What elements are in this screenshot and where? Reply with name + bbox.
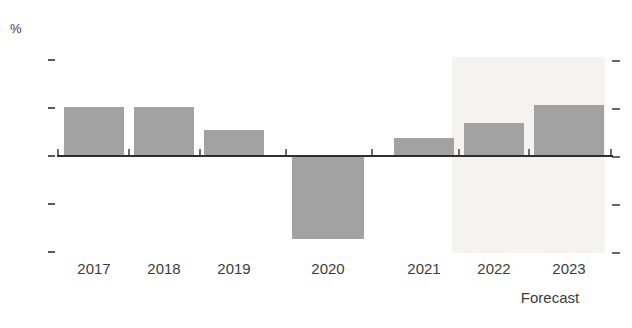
bar-2019 — [204, 130, 264, 155]
x-axis-label-2017: 2017 — [64, 261, 124, 277]
x-axis-label-2021: 2021 — [394, 261, 454, 277]
bar-chart: % 8 4 0 -4 -8 — [0, 0, 632, 328]
bar-2020 — [292, 157, 364, 239]
x-axis-label-2023: 2023 — [534, 261, 604, 277]
x-axis-label-2019: 2019 — [204, 261, 264, 277]
bar-2018 — [134, 107, 194, 155]
x-axis-label-2018: 2018 — [134, 261, 194, 277]
bar-2023 — [534, 105, 604, 155]
zero-baseline — [57, 155, 613, 157]
x-axis-label-2022: 2022 — [464, 261, 524, 277]
forecast-annotation-label: Forecast — [490, 290, 610, 306]
bar-2017 — [64, 107, 124, 155]
plot-area — [0, 0, 632, 328]
bar-2021 — [394, 138, 454, 155]
bar-2022 — [464, 123, 524, 155]
x-axis-label-2020: 2020 — [292, 261, 364, 277]
